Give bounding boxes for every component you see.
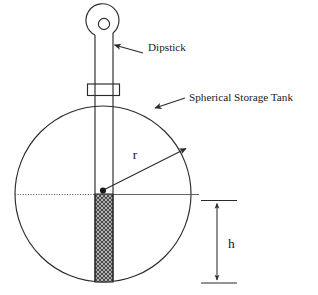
tank-label: Spherical Storage Tank [189,91,293,103]
diagram-canvas: r h Dipstick Spherical Storage Tank [0,0,318,295]
spherical-tank-dipstick-diagram: r h Dipstick Spherical Storage Tank [0,0,318,295]
height-label: h [228,236,235,251]
dipstick-collar [88,84,120,96]
tank-center-dot [100,187,106,193]
dipstick-handle-loop [86,4,119,35]
dipstick-leader-arrow [115,45,144,53]
dipstick-label: Dipstick [148,41,186,53]
wetted-dipstick-region [95,194,113,282]
tank-leader-arrow [155,98,185,108]
dipstick-handle-hole [98,18,109,29]
radius-label: r [133,147,138,162]
radius-arrow [105,149,187,190]
